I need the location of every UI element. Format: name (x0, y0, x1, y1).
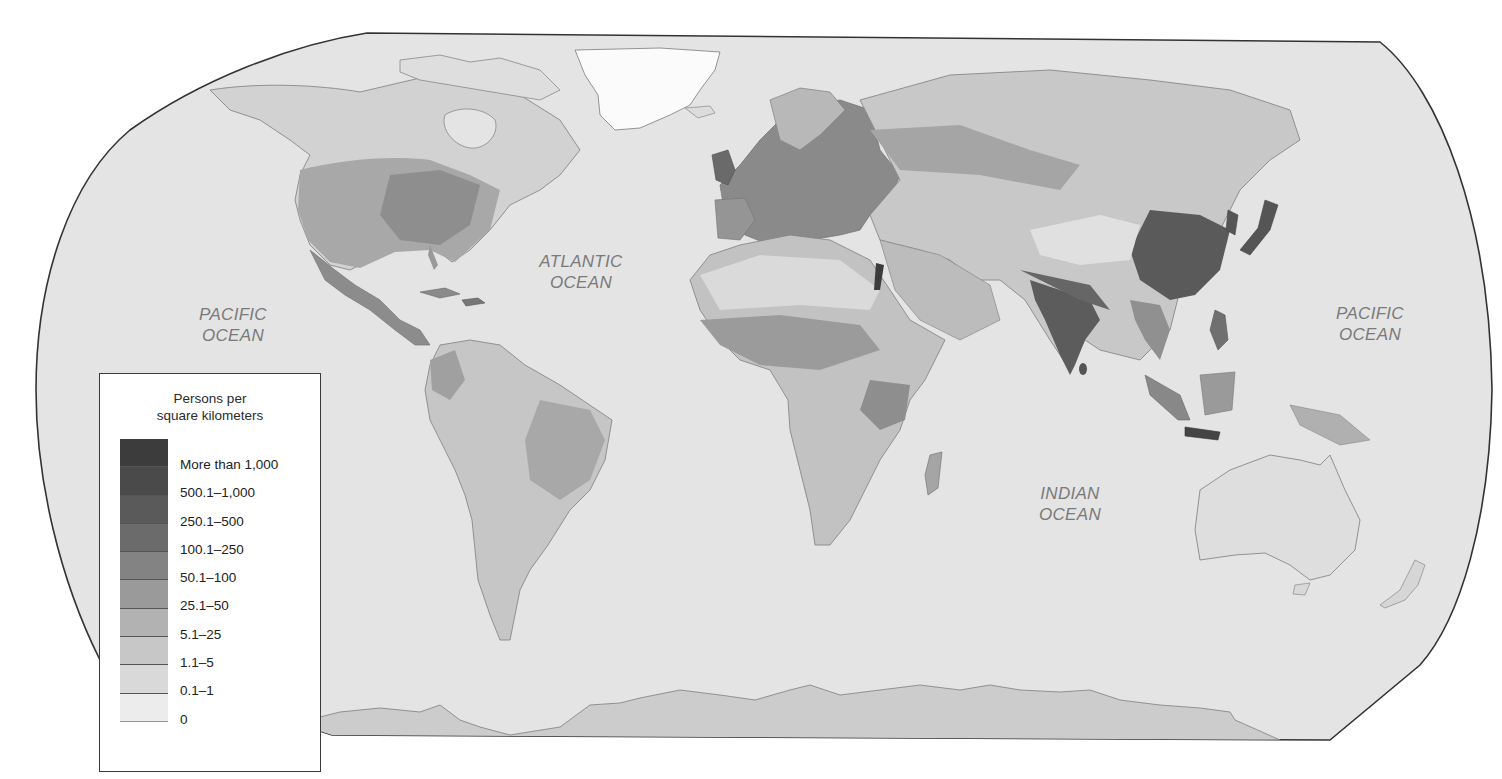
legend-label: 500.1–1,000 (180, 484, 278, 512)
ocean-label-pacific-west: PACIFIC OCEAN (183, 304, 283, 346)
legend-label: More than 1,000 (180, 456, 278, 484)
ocean-label-line: OCEAN (521, 272, 641, 293)
legend-label: 5.1–25 (180, 626, 278, 654)
legend-swatches (120, 439, 168, 722)
legend: Persons per square kilometers More than … (99, 373, 321, 772)
ocean-label-line: ATLANTIC (521, 251, 641, 272)
legend-title-line1: Persons per (100, 390, 320, 407)
ocean-label-pacific-east: PACIFIC OCEAN (1320, 303, 1420, 345)
ocean-label-indian: INDIAN OCEAN (1020, 483, 1120, 525)
legend-title: Persons per square kilometers (100, 390, 320, 424)
legend-labels: More than 1,000 500.1–1,000 250.1–500 10… (180, 456, 278, 739)
legend-label: 250.1–500 (180, 513, 278, 541)
legend-label: 1.1–5 (180, 654, 278, 682)
ocean-label-line: INDIAN (1020, 483, 1120, 504)
legend-swatch (120, 467, 168, 495)
legend-swatch (120, 439, 168, 467)
legend-swatch (120, 665, 168, 693)
legend-label: 25.1–50 (180, 597, 278, 625)
legend-label: 50.1–100 (180, 569, 278, 597)
legend-swatch (120, 637, 168, 665)
legend-swatch (120, 496, 168, 524)
legend-swatch (120, 524, 168, 552)
ocean-label-line: OCEAN (183, 325, 283, 346)
legend-label: 100.1–250 (180, 541, 278, 569)
ocean-label-line: OCEAN (1320, 324, 1420, 345)
legend-title-line2: square kilometers (100, 407, 320, 424)
legend-swatch (120, 552, 168, 580)
ocean-label-atlantic: ATLANTIC OCEAN (521, 251, 641, 293)
ocean-label-line: PACIFIC (1320, 303, 1420, 324)
legend-label: 0.1–1 (180, 682, 278, 710)
ocean-label-line: PACIFIC (183, 304, 283, 325)
ocean-label-line: OCEAN (1020, 504, 1120, 525)
legend-swatch (120, 694, 168, 722)
legend-label: 0 (180, 711, 278, 739)
legend-swatch (120, 609, 168, 637)
legend-swatch (120, 580, 168, 608)
